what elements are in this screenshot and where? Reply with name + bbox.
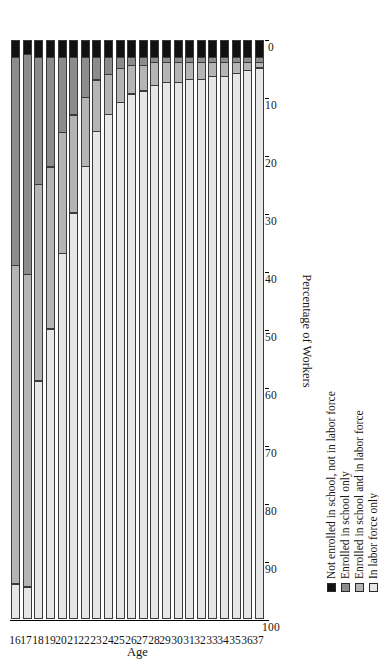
bar-segment (104, 74, 113, 115)
value-axis-tick-label: 40 (265, 273, 277, 285)
bar-row (127, 41, 136, 621)
bar-segment (139, 40, 148, 57)
bar-segment (11, 57, 20, 266)
plot-area (10, 41, 265, 621)
bar-segment (127, 40, 136, 57)
value-axis-tick-label: 60 (265, 389, 277, 401)
bar-segment (185, 40, 194, 57)
bar-segment (127, 94, 136, 619)
bar-segment (58, 40, 67, 57)
bar-segment (174, 82, 183, 619)
bar-segment (174, 40, 183, 57)
bar-segment (255, 68, 264, 619)
bar-segment (104, 114, 113, 619)
legend-label: Not enrolled in school, not in labor for… (327, 391, 336, 579)
bar-segment (162, 62, 171, 82)
value-axis-tick-label: 80 (265, 505, 277, 517)
bar-row (220, 41, 229, 621)
bar-segment (69, 40, 78, 57)
legend-label: In labor force only (369, 493, 378, 579)
bar-segment (46, 329, 55, 619)
bar-segment (150, 85, 159, 619)
bar-row (23, 41, 32, 621)
legend-swatch-icon (369, 583, 378, 592)
bar-segment (46, 40, 55, 57)
bar-segment (255, 57, 264, 63)
bar-segment (23, 54, 32, 274)
category-axis-tick-label: 37 (247, 634, 269, 646)
legend-label: Enrolled in school only (341, 471, 350, 579)
bar-segment (104, 40, 113, 57)
bar-segment (232, 57, 241, 63)
bar-row (139, 41, 148, 621)
bar-row (34, 41, 43, 621)
legend-item: Not enrolled in school, not in labor for… (327, 391, 336, 592)
bar-row (11, 41, 20, 621)
bar-segment (139, 65, 148, 91)
bar-segment (220, 57, 229, 63)
bar-segment (69, 213, 78, 619)
bar-segment (92, 80, 101, 132)
bar-segment (232, 40, 241, 57)
bar-segment (232, 62, 241, 74)
legend-swatch-icon (341, 583, 350, 592)
bar-row (92, 41, 101, 621)
bar-segment (162, 40, 171, 57)
bar-segment (92, 131, 101, 618)
bar-segment (69, 57, 78, 115)
bar-row (197, 41, 206, 621)
bar-row (162, 41, 171, 621)
bar-segment (185, 62, 194, 79)
bar-segment (92, 57, 101, 80)
bar-segment (81, 57, 90, 98)
bar-segment (58, 57, 67, 132)
bar-segment (243, 57, 252, 63)
bar-segment (116, 102, 125, 618)
bar-segment (11, 40, 20, 57)
legend-item: In labor force only (369, 493, 378, 592)
bar-row (185, 41, 194, 621)
bar-segment (243, 62, 252, 71)
bar-row (116, 41, 125, 621)
bar-segment (81, 166, 90, 618)
bar-segment (174, 62, 183, 82)
bar-segment (34, 57, 43, 185)
value-axis-tick-label: 10 (265, 99, 277, 111)
bar-segment (46, 167, 55, 329)
bar-row (255, 41, 264, 621)
bar-segment (208, 40, 217, 57)
bar-segment (150, 62, 159, 85)
bar-segment (92, 40, 101, 57)
value-axis-tick-label: 100 (262, 621, 280, 633)
bar-row (69, 41, 78, 621)
value-axis-tick-label: 90 (265, 563, 277, 575)
bar-segment (139, 91, 148, 619)
bar-segment (255, 62, 264, 68)
bar-segment (243, 71, 252, 619)
bar-segment (162, 82, 171, 619)
bar-row (104, 41, 113, 621)
bar-segment (197, 57, 206, 63)
value-axis-title: Percentage of Workers (299, 271, 314, 391)
bar-segment (58, 253, 67, 618)
bar-segment (127, 65, 136, 94)
bar-segment (197, 79, 206, 618)
value-axis-tick-label: 70 (265, 447, 277, 459)
bar-segment (162, 57, 171, 63)
legend-item: Enrolled in school and in labor force (355, 410, 364, 592)
bar-segment (220, 76, 229, 618)
bar-row (232, 41, 241, 621)
bar-segment (81, 97, 90, 167)
legend-swatch-icon (355, 583, 364, 592)
legend-label: Enrolled in school and in labor force (355, 410, 364, 579)
bar-segment (139, 57, 148, 66)
bar-segment (243, 40, 252, 57)
bar-segment (150, 40, 159, 57)
bar-segment (104, 57, 113, 74)
bar-row (81, 41, 90, 621)
bar-row (243, 41, 252, 621)
bar-segment (11, 584, 20, 619)
bar-segment (23, 40, 32, 55)
bar-row (46, 41, 55, 621)
